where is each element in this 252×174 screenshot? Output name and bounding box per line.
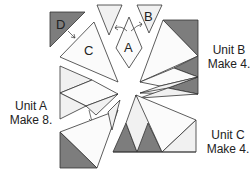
unit-a-instruction: Make 8. xyxy=(6,113,56,127)
unit-a-title: Unit A xyxy=(6,99,56,113)
unit-c-instruction: Make 4. xyxy=(204,142,252,156)
unit-a-label: Unit A Make 8. xyxy=(6,99,56,127)
unit-b-title: Unit B xyxy=(206,43,252,57)
piece-c-label: C xyxy=(84,43,93,58)
piece-d-label: D xyxy=(56,17,65,32)
unit-c-label: Unit C Make 4. xyxy=(204,128,252,156)
unit-c-block xyxy=(113,95,196,152)
unit-c-title: Unit C xyxy=(204,128,252,142)
arrow-d-to-c-icon xyxy=(68,31,75,38)
piece-small-triangle-left xyxy=(97,5,122,35)
piece-b-label: B xyxy=(144,9,153,24)
unit-b-instruction: Make 4. xyxy=(206,57,252,71)
piece-a-label: A xyxy=(124,40,133,55)
unit-b-label: Unit B Make 4. xyxy=(206,43,252,71)
